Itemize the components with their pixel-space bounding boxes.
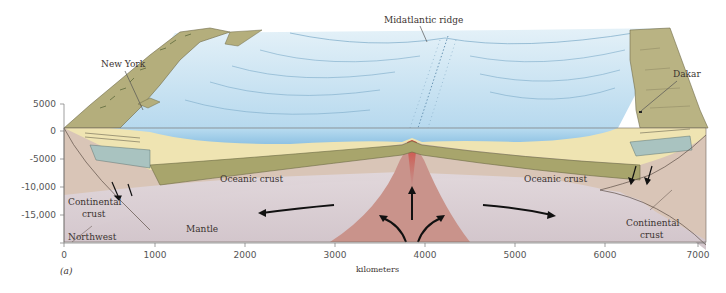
y-tick-5000: 5000	[0, 99, 56, 109]
label-oceanic-crust-left: Oceanic crust	[220, 174, 283, 185]
label-new-york: New York	[101, 59, 145, 70]
label-midatlantic-ridge: Midatlantic ridge	[384, 15, 463, 26]
y-tick-minus-10000: -10,000	[0, 182, 56, 192]
x-axis-title: kilometers	[356, 264, 399, 275]
label-oceanic-crust-right: Oceanic crust	[524, 174, 587, 185]
x-tick-2000: 2000	[225, 250, 265, 260]
label-continental-crust-right: Continental	[626, 218, 679, 229]
label-continental-crust-right-2: crust	[640, 230, 663, 241]
y-tick-0: 0	[0, 126, 56, 136]
x-tick-5000: 5000	[495, 250, 535, 260]
label-mantle: Mantle	[186, 224, 218, 235]
x-tick-7000: 7000	[678, 250, 718, 260]
label-dakar: Dakar	[673, 69, 701, 80]
x-tick-4000: 4000	[405, 250, 445, 260]
label-northwest: Northwest	[68, 232, 116, 243]
cross-section	[64, 128, 706, 250]
x-tick-6000: 6000	[585, 250, 625, 260]
label-continental-crust-left: Continental	[68, 197, 121, 208]
label-continental-crust-left-2: crust	[82, 209, 105, 220]
panel-label: (a)	[60, 266, 72, 277]
x-tick-3000: 3000	[315, 250, 355, 260]
x-tick-1000: 1000	[135, 250, 175, 260]
y-tick-minus-15000: -15,000	[0, 210, 56, 220]
x-tick-0: 0	[44, 250, 84, 260]
y-tick-minus-5000: -5000	[0, 154, 56, 164]
